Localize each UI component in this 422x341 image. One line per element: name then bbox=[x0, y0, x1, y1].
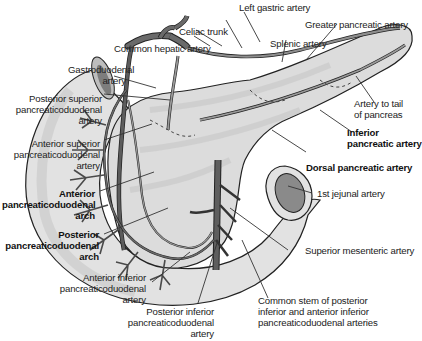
label-inferior-pancreatic-artery: Inferior pancreatic artery bbox=[347, 127, 422, 149]
label-splenic-artery: Splenic artery bbox=[270, 38, 327, 49]
label-superior-mesenteric-artery: Superior mesenteric artery bbox=[305, 245, 414, 256]
label-common-hepatic-artery: Common hepatic artery bbox=[114, 43, 211, 54]
label-celiac-trunk: Celiac trunk bbox=[179, 26, 228, 37]
pancreas-artery-diagram: Left gastric artery Celiac trunk Greater… bbox=[0, 0, 422, 341]
label-first-jejunal-artery: 1st jejunal artery bbox=[317, 188, 385, 199]
label-posterior-superior-pancreaticoduodenal-artery: Posterior superior pancreaticoduodenal a… bbox=[2, 93, 102, 126]
label-posterior-inferior-pancreaticoduodenal-artery: Posterior inferior pancreaticoduodenal a… bbox=[120, 306, 214, 339]
label-anterior-inferior-pancreaticoduodenal-artery: Anterior inferior pancreaticoduodenal ar… bbox=[50, 272, 146, 305]
label-posterior-pancreaticoduodenal-arch: Posterior pancreaticoduodenal arch bbox=[2, 229, 99, 262]
label-artery-to-tail-of-pancreas: Artery to tail of pancreas bbox=[354, 98, 403, 120]
label-common-stem-pancreaticoduodenal-arteries: Common stem of posterior inferior and an… bbox=[258, 295, 378, 328]
label-dorsal-pancreatic-artery: Dorsal pancreatic artery bbox=[306, 162, 412, 173]
label-left-gastric-artery: Left gastric artery bbox=[239, 2, 310, 13]
label-gastroduodenal-artery: Gastroduodenal artery bbox=[68, 64, 126, 86]
label-greater-pancreatic-artery: Greater pancreatic artery bbox=[305, 19, 408, 30]
label-anterior-pancreaticoduodenal-arch: Anterior pancreaticoduodenal arch bbox=[2, 188, 95, 221]
label-anterior-superior-pancreaticoduodenal-artery: Anterior superior pancreaticoduodenal ar… bbox=[2, 138, 100, 171]
